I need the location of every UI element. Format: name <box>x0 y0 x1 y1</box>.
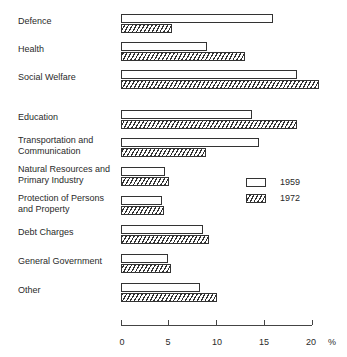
bar-1972 <box>121 52 245 61</box>
x-axis-line <box>121 325 312 326</box>
x-tick-10 <box>216 320 217 325</box>
x-tick-label: 10 <box>212 337 222 347</box>
category-label: Other <box>18 285 41 296</box>
bar-1959 <box>121 42 207 51</box>
bar-1959 <box>121 167 165 176</box>
bar-1959 <box>121 110 252 119</box>
legend-label-1959: 1959 <box>280 177 300 187</box>
bar-1972 <box>121 177 169 186</box>
x-tick-20 <box>312 320 313 325</box>
category-label: Education <box>18 112 58 123</box>
category-label: General Government <box>18 256 102 267</box>
bar-1959 <box>121 14 273 23</box>
legend-label-1972: 1972 <box>280 193 300 203</box>
bar-1972 <box>121 80 319 89</box>
x-tick-15 <box>264 320 265 325</box>
x-tick-0 <box>121 320 122 325</box>
category-label: Natural Resources and Primary Industry <box>18 164 110 186</box>
x-tick-label: 0 <box>119 337 124 347</box>
bar-1972 <box>121 264 171 273</box>
bar-1972 <box>121 293 217 302</box>
x-axis-unit: % <box>328 337 336 347</box>
bar-1959 <box>121 70 297 79</box>
bar-1959 <box>121 196 162 205</box>
bar-1972 <box>121 120 297 129</box>
bar-1972 <box>121 24 172 33</box>
x-tick-label: 20 <box>306 337 316 347</box>
x-tick-5 <box>168 320 169 325</box>
category-label: Health <box>18 44 44 55</box>
bar-1972 <box>121 235 209 244</box>
x-tick-label: 5 <box>165 337 170 347</box>
bar-1972 <box>121 148 206 157</box>
bar-1959 <box>121 138 259 147</box>
bar-1972 <box>121 206 164 215</box>
legend-swatch-1959 <box>246 178 266 187</box>
bar-1959 <box>121 283 200 292</box>
category-label: Debt Charges <box>18 227 74 238</box>
bar-1959 <box>121 254 168 263</box>
category-label: Defence <box>18 16 52 27</box>
x-tick-label: 15 <box>259 337 269 347</box>
legend-swatch-1972 <box>246 194 266 203</box>
category-label: Social Welfare <box>18 72 76 83</box>
bar-1959 <box>121 225 203 234</box>
category-label: Protection of Persons and Property <box>18 193 104 215</box>
category-label: Transportation and Communication <box>18 135 93 157</box>
